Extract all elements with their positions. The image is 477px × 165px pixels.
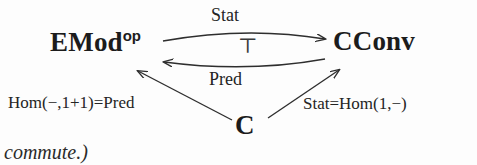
node-emod-op: EModop [50,28,141,56]
edge-label-hom-left: Hom(−,1+1)=Pred [8,94,135,111]
caption-text: commute.) [4,141,88,164]
edge-label-stat-top: Stat [211,6,239,24]
node-emod-base: EMod [50,27,123,57]
edge-label-stat-right: Stat=Hom(1,−) [303,95,407,112]
node-c: C [235,112,255,139]
adjunction-symbol: ⊤ [238,36,258,57]
edge-label-pred-bottom: Pred [209,70,242,88]
diagram-canvas: EModop CConv C Stat Pred ⊤ Hom(−,1+1)=Pr… [0,0,477,165]
edge-pred-bottom-arrow [164,59,325,67]
node-c-base: C [235,110,255,140]
node-cconv: CConv [333,28,415,55]
node-emod-superscript: op [123,27,141,44]
node-cconv-base: CConv [333,26,415,56]
